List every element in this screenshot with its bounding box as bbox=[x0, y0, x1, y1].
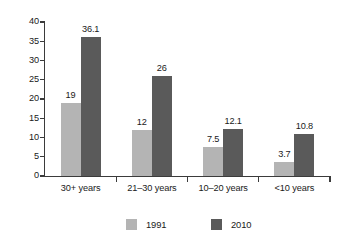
bar-2010-1 bbox=[81, 37, 101, 176]
y-tick-mark bbox=[40, 21, 45, 22]
legend-label-2010: 2010 bbox=[231, 219, 251, 230]
y-tick-label: 20 bbox=[11, 94, 39, 103]
bar-value-label: 12.1 bbox=[216, 117, 250, 126]
bar-value-label: 26 bbox=[145, 64, 179, 73]
y-tick-label: 30 bbox=[11, 56, 39, 65]
category-label: <10 years bbox=[259, 183, 330, 193]
bar-2010-2 bbox=[152, 76, 172, 176]
x-tick-mark bbox=[187, 177, 188, 182]
bar-1991-1 bbox=[61, 103, 81, 176]
bar-2010-4 bbox=[294, 134, 314, 176]
category-label: 10–20 years bbox=[188, 183, 259, 193]
y-tick-label: 0 bbox=[11, 171, 39, 180]
y-tick-mark bbox=[40, 175, 45, 176]
legend-entry-1991[interactable]: 1991 bbox=[126, 215, 166, 233]
plot-area: 1936.112267.512.13.710.8 bbox=[45, 22, 330, 176]
bar-2010-3 bbox=[223, 129, 243, 176]
legend-entry-2010[interactable]: 2010 bbox=[211, 215, 251, 233]
y-tick-mark bbox=[40, 41, 45, 42]
y-tick-label: 15 bbox=[11, 114, 39, 123]
x-tick-mark bbox=[116, 177, 117, 182]
category-label: 30+ years bbox=[45, 183, 116, 193]
y-tick-mark bbox=[40, 60, 45, 61]
bar-1991-3 bbox=[203, 147, 223, 176]
y-tick-label: 10 bbox=[11, 133, 39, 142]
y-tick-label: 25 bbox=[11, 75, 39, 84]
y-tick-mark bbox=[40, 156, 45, 157]
bar-chart-figure: 0510152025303540 1936.112267.512.13.710.… bbox=[0, 0, 355, 246]
legend-label-1991: 1991 bbox=[146, 219, 166, 230]
x-tick-mark bbox=[258, 177, 259, 182]
y-tick-mark bbox=[40, 118, 45, 119]
category-label: 21–30 years bbox=[116, 183, 187, 193]
y-tick-mark bbox=[40, 137, 45, 138]
bar-1991-4 bbox=[274, 162, 294, 176]
legend-swatch-2010 bbox=[211, 219, 222, 230]
chart-legend: 1991 2010 bbox=[0, 215, 355, 237]
y-tick-label: 5 bbox=[11, 152, 39, 161]
x-tick-mark bbox=[329, 177, 330, 182]
y-tick-mark bbox=[40, 98, 45, 99]
bar-1991-2 bbox=[132, 130, 152, 176]
legend-swatch-1991 bbox=[126, 219, 137, 230]
y-tick-label: 40 bbox=[11, 17, 39, 26]
bar-value-label: 10.8 bbox=[287, 122, 321, 131]
y-tick-label: 35 bbox=[11, 37, 39, 46]
y-tick-mark bbox=[40, 79, 45, 80]
bar-value-label: 36.1 bbox=[74, 25, 108, 34]
